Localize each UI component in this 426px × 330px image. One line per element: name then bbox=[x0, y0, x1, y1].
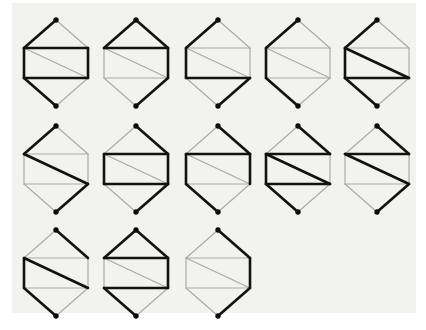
graph-edge-lower-right-to-bottom bbox=[298, 184, 330, 212]
figure-grid bbox=[0, 0, 426, 330]
graph-vertex-top bbox=[53, 17, 58, 22]
graph-vertex-bottom bbox=[133, 103, 138, 108]
graph-edge-lower-right-to-bottom bbox=[136, 78, 168, 106]
graph-vertex-bottom bbox=[215, 209, 220, 214]
graph-vertex-bottom bbox=[374, 209, 379, 214]
graph-edge-lower-right-to-bottom bbox=[218, 288, 250, 316]
graph-edge-top-to-upper-left bbox=[186, 20, 218, 48]
hexagon-figure bbox=[16, 222, 96, 322]
graph-vertex-bottom bbox=[215, 313, 220, 318]
hexagon-figure bbox=[16, 12, 96, 112]
graph-vertex-top bbox=[374, 17, 379, 22]
screenshot-root bbox=[0, 0, 426, 330]
graph-edge-top-to-upper-right bbox=[56, 126, 88, 154]
graph-vertex-top bbox=[215, 227, 220, 232]
graph-edge-lower-left-to-bottom bbox=[104, 184, 136, 212]
graph-edge-top-to-upper-right bbox=[377, 126, 409, 154]
graph-edge-top-to-upper-left bbox=[24, 230, 56, 258]
graph-edge-lower-left-to-bottom bbox=[24, 184, 56, 212]
graph-edge-upper-left-to-lower-right bbox=[104, 48, 168, 78]
hexagon-figure bbox=[258, 12, 338, 112]
graph-edge-lower-right-to-bottom bbox=[298, 78, 330, 106]
graph-vertex-bottom bbox=[53, 209, 58, 214]
graph-edge-top-to-upper-left bbox=[104, 20, 136, 48]
graph-edge-lower-left-to-bottom bbox=[186, 78, 218, 106]
hexagon-figure bbox=[337, 118, 417, 218]
graph-vertex-top bbox=[133, 17, 138, 22]
graph-edge-upper-left-to-lower-right bbox=[186, 154, 250, 184]
hexagon-figure bbox=[96, 222, 176, 322]
graph-edge-upper-left-to-lower-right bbox=[345, 154, 409, 184]
graph-edge-top-to-upper-left bbox=[186, 230, 218, 258]
graph-edge-top-to-upper-left bbox=[266, 20, 298, 48]
graph-edge-top-to-upper-left bbox=[24, 20, 56, 48]
graph-edge-upper-left-to-lower-right bbox=[24, 48, 88, 78]
graph-edge-upper-left-to-lower-right bbox=[104, 154, 168, 184]
graph-edge-upper-left-to-lower-right bbox=[104, 258, 168, 288]
graph-edge-lower-left-to-bottom bbox=[104, 288, 136, 316]
graph-edge-top-to-upper-right bbox=[218, 230, 250, 258]
graph-edge-lower-right-to-bottom bbox=[218, 78, 250, 106]
hexagon-figure bbox=[178, 118, 258, 218]
graph-edge-upper-left-to-lower-right bbox=[24, 154, 88, 184]
graph-vertex-bottom bbox=[374, 103, 379, 108]
graph-vertex-bottom bbox=[133, 209, 138, 214]
graph-edge-lower-right-to-bottom bbox=[56, 78, 88, 106]
graph-edge-lower-right-to-bottom bbox=[56, 184, 88, 212]
graph-edge-top-to-upper-right bbox=[298, 20, 330, 48]
graph-edge-lower-left-to-bottom bbox=[186, 288, 218, 316]
graph-vertex-top bbox=[215, 123, 220, 128]
graph-edge-lower-left-to-bottom bbox=[24, 78, 56, 106]
graph-edge-top-to-upper-left bbox=[186, 126, 218, 154]
graph-vertex-top bbox=[374, 123, 379, 128]
graph-vertex-top bbox=[53, 227, 58, 232]
graph-edge-upper-left-to-lower-right bbox=[266, 154, 330, 184]
graph-vertex-bottom bbox=[133, 313, 138, 318]
graph-edge-top-to-upper-right bbox=[136, 230, 168, 258]
graph-vertex-top bbox=[133, 227, 138, 232]
hexagon-figure bbox=[337, 12, 417, 112]
graph-edge-top-to-upper-right bbox=[218, 126, 250, 154]
graph-edge-top-to-upper-left bbox=[266, 126, 298, 154]
graph-edge-lower-right-to-bottom bbox=[377, 78, 409, 106]
graph-edge-lower-left-to-bottom bbox=[186, 184, 218, 212]
graph-edge-top-to-upper-right bbox=[136, 126, 168, 154]
graph-edge-lower-left-to-bottom bbox=[104, 78, 136, 106]
graph-vertex-bottom bbox=[53, 313, 58, 318]
graph-vertex-bottom bbox=[53, 103, 58, 108]
graph-vertex-top bbox=[295, 123, 300, 128]
graph-vertex-bottom bbox=[295, 209, 300, 214]
graph-edge-upper-left-to-lower-right bbox=[186, 48, 250, 78]
graph-vertex-top bbox=[133, 123, 138, 128]
graph-edge-top-to-upper-left bbox=[104, 230, 136, 258]
graph-edge-lower-right-to-bottom bbox=[56, 288, 88, 316]
hexagon-figure bbox=[178, 222, 258, 322]
graph-vertex-top bbox=[295, 17, 300, 22]
graph-edge-top-to-upper-right bbox=[377, 20, 409, 48]
graph-vertex-bottom bbox=[215, 103, 220, 108]
graph-edge-top-to-upper-left bbox=[345, 126, 377, 154]
graph-edge-lower-left-to-bottom bbox=[345, 184, 377, 212]
graph-edge-top-to-upper-right bbox=[136, 20, 168, 48]
graph-edge-top-to-upper-right bbox=[56, 20, 88, 48]
graph-edge-lower-right-to-bottom bbox=[218, 184, 250, 212]
graph-edge-upper-left-to-lower-right bbox=[266, 48, 330, 78]
graph-edge-top-to-upper-right bbox=[56, 230, 88, 258]
graph-vertex-bottom bbox=[295, 103, 300, 108]
graph-edge-top-to-upper-left bbox=[345, 20, 377, 48]
graph-edge-top-to-upper-right bbox=[218, 20, 250, 48]
graph-edge-top-to-upper-left bbox=[104, 126, 136, 154]
graph-edge-upper-left-to-lower-right bbox=[24, 258, 88, 288]
graph-edge-lower-left-to-bottom bbox=[266, 78, 298, 106]
graph-edge-lower-left-to-bottom bbox=[345, 78, 377, 106]
graph-vertex-top bbox=[215, 17, 220, 22]
hexagon-figure bbox=[96, 12, 176, 112]
graph-edge-lower-right-to-bottom bbox=[377, 184, 409, 212]
graph-edge-lower-left-to-bottom bbox=[24, 288, 56, 316]
graph-edge-upper-left-to-lower-right bbox=[186, 258, 250, 288]
graph-edge-upper-left-to-lower-right bbox=[345, 48, 409, 78]
graph-edge-top-to-upper-right bbox=[298, 126, 330, 154]
graph-edge-lower-left-to-bottom bbox=[266, 184, 298, 212]
graph-edge-lower-right-to-bottom bbox=[136, 288, 168, 316]
graph-edge-top-to-upper-left bbox=[24, 126, 56, 154]
